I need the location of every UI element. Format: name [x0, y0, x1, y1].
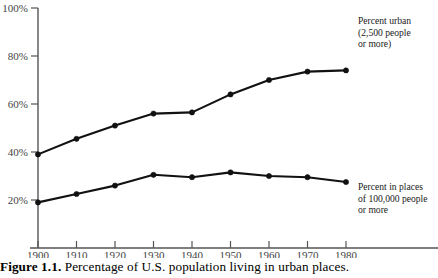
data-point — [189, 175, 194, 180]
y-tick-label-20: 20% — [8, 194, 28, 206]
data-point — [343, 68, 348, 73]
data-point — [343, 179, 348, 184]
data-point — [151, 172, 156, 177]
annotation-urban-label: Percent urban(2,500 peopleor more) — [358, 15, 411, 50]
data-point — [74, 191, 79, 196]
x-tick-label-1980: 1980 — [335, 249, 358, 258]
data-point — [305, 175, 310, 180]
x-tick-label-1930: 1930 — [143, 249, 166, 258]
y-tick-label-100: 100% — [2, 2, 28, 14]
figure-caption-text: Percentage of U.S. population living in … — [65, 259, 349, 274]
figure-caption-label: Figure 1.1. — [0, 259, 61, 274]
data-series-layer — [35, 68, 348, 205]
x-tick-label-1970: 1970 — [297, 249, 320, 258]
x-tick-label-1960: 1960 — [258, 249, 281, 258]
x-tick-label-1920: 1920 — [104, 249, 127, 258]
data-point — [228, 92, 233, 97]
data-point — [112, 123, 117, 128]
x-tick-label-1950: 1950 — [220, 249, 243, 258]
data-point — [305, 69, 310, 74]
data-point — [35, 152, 40, 157]
x-tick-label-1940: 1940 — [181, 249, 204, 258]
x-tick-label-1910: 1910 — [66, 249, 89, 258]
annotation-large-places-label: Percent in placesof 100,000 peopleor mor… — [358, 181, 428, 215]
y-tick-label-80: 80% — [8, 50, 28, 62]
x-axis-ticks — [38, 241, 346, 248]
chart-plot-area: 100% 80% 60% 40% 20% 1900 1910 1920 1930… — [0, 0, 438, 258]
data-point — [189, 110, 194, 115]
data-point — [266, 77, 271, 82]
figure-container: 100% 80% 60% 40% 20% 1900 1910 1920 1930… — [0, 0, 438, 278]
data-point — [266, 173, 271, 178]
figure-caption: Figure 1.1. Percentage of U.S. populatio… — [0, 259, 438, 275]
x-tick-label-1900: 1900 — [27, 249, 50, 258]
chart-annotations-layer: Percent urban(2,500 peopleor more)Percen… — [358, 15, 428, 215]
y-axis-ticks — [31, 8, 38, 200]
data-point — [35, 200, 40, 205]
data-point — [151, 111, 156, 116]
data-point — [74, 136, 79, 141]
data-point — [112, 183, 117, 188]
y-tick-label-40: 40% — [8, 146, 28, 158]
data-point — [228, 170, 233, 175]
y-tick-label-60: 60% — [8, 98, 28, 110]
